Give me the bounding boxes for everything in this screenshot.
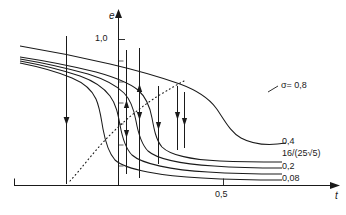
- x-axis-label: t: [335, 190, 338, 201]
- x-tick-label-05: 0,5: [215, 189, 228, 199]
- y-minor-ticks: [119, 61, 124, 166]
- curve-sigma-0-08: [20, 63, 282, 180]
- label-leader-group: [268, 86, 278, 92]
- x-axis-arrowhead: [330, 182, 340, 189]
- curve-label-sigma-0-2: 0,2: [282, 161, 295, 171]
- curve-label-sigma-0-8: σ= 0,8: [281, 80, 307, 90]
- y-axis-label: e: [109, 10, 115, 21]
- jump-arrow: [175, 86, 180, 150]
- curve-sigma-0-2: [20, 61, 282, 174]
- curve-group: [20, 46, 286, 180]
- figure-canvas: e t 1,0 0,5 σ= 0,8 0,4 16/(25√5) 0,2 0,0…: [0, 0, 346, 215]
- jump-arrow: [156, 86, 161, 164]
- curve-label-sigma-crit: 16/(25√5): [282, 148, 320, 158]
- y-tick-label-1: 1,0: [95, 33, 108, 43]
- curve-sigma-0-8: [20, 46, 286, 144]
- y-axis-arrowhead: [115, 9, 122, 18]
- curve-label-sigma-0-08: 0,08: [282, 173, 300, 183]
- jump-arrow: [64, 36, 70, 184]
- curve-label-sigma-0-4: 0,4: [282, 136, 295, 146]
- jump-arrow: [182, 92, 187, 148]
